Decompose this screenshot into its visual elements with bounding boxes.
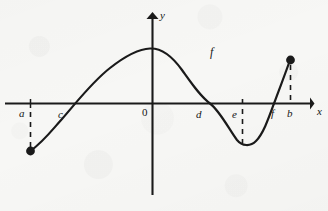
graph-plot-area: [0, 0, 328, 211]
x-axis-arrow-icon: [310, 98, 315, 110]
figure-graph-of-f: a c 0 d e f b x y f: [0, 0, 328, 211]
x-tick-label-a: a: [19, 108, 25, 119]
endpoint-dot-a: [26, 147, 35, 156]
curve-f: [31, 48, 291, 151]
y-axis-arrow-icon: [147, 12, 159, 19]
curve-name-label: f: [210, 46, 213, 58]
x-tick-label-e: e: [232, 109, 237, 120]
origin-label: 0: [142, 107, 148, 118]
endpoint-dot-b: [286, 56, 295, 65]
x-tick-label-f: f: [271, 108, 274, 119]
x-tick-label-c: c: [58, 109, 63, 120]
x-tick-label-b: b: [287, 108, 293, 119]
x-tick-label-d: d: [196, 109, 202, 120]
x-axis-label: x: [317, 106, 322, 117]
y-axis-label: y: [160, 10, 165, 21]
